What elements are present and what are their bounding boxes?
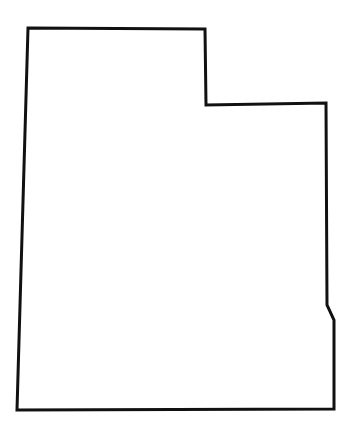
state-outline-map xyxy=(0,0,360,439)
map-canvas xyxy=(0,0,360,439)
utah-state-outline xyxy=(17,28,334,410)
